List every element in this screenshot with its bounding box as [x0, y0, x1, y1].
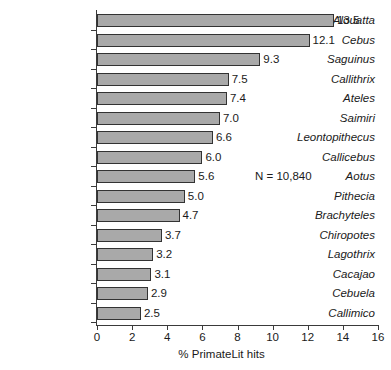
bar-value-label: 9.3: [260, 50, 279, 70]
value-axis-tick-label: 16: [372, 331, 385, 343]
value-axis-tick: [343, 325, 344, 330]
value-axis-tick-label: 8: [234, 331, 240, 343]
bar-value-label: 3.7: [162, 226, 181, 246]
bar-row: Saimiri7.0: [97, 109, 378, 129]
bar-row: Callicebus6.0: [97, 148, 378, 168]
value-axis-tick-label: 6: [199, 331, 205, 343]
category-label: Callimico: [328, 304, 375, 324]
bar-row: Lagothrix3.2: [97, 245, 378, 265]
category-label: Callithrix: [331, 70, 375, 90]
value-axis-tick: [167, 325, 168, 330]
bar-row: Brachyteles4.7: [97, 206, 378, 226]
bar: [97, 287, 148, 300]
bar: [97, 112, 220, 125]
bar: [97, 92, 227, 105]
bar-row: Leontopithecus6.6: [97, 128, 378, 148]
category-axis-tick: [91, 322, 97, 323]
bar-value-label: 12.1: [310, 31, 335, 51]
bar-value-label: 6.0: [202, 148, 221, 168]
category-label: Pithecia: [334, 187, 375, 207]
bar-row: Chiropotes3.7: [97, 226, 378, 246]
x-axis-title-text: % PrimateLit hits: [126, 348, 264, 360]
category-label: Saimiri: [340, 109, 375, 129]
category-label: Leontopithecus: [297, 128, 375, 148]
bar-row: Aotus5.6: [97, 167, 378, 187]
bar-value-label: 2.5: [141, 304, 160, 324]
bar-value-label: 3.1: [151, 265, 170, 285]
category-label: Brachyteles: [315, 206, 375, 226]
category-label: Aotus: [346, 167, 375, 187]
bar-row: Cebus12.1: [97, 31, 378, 51]
bar: [97, 229, 162, 242]
bar-value-label: 2.9: [148, 284, 167, 304]
value-axis-tick-label: 14: [336, 331, 349, 343]
bar: [97, 170, 195, 183]
category-label: Saguinus: [327, 50, 375, 70]
bar-row: Cacajao3.1: [97, 265, 378, 285]
sample-size-annotation: N = 10,840: [255, 167, 312, 187]
bar-row: Alouatta13.5: [97, 11, 378, 31]
value-axis-tick: [202, 325, 203, 330]
bar-chart: Alouatta13.5Cebus12.1Saguinus9.3Callithr…: [0, 0, 391, 370]
x-axis-title: % PrimateLit hits: [0, 348, 391, 360]
category-label: Cebus: [342, 31, 375, 51]
bar: [97, 307, 141, 320]
bar-value-label: 6.6: [213, 128, 232, 148]
bar-row: Ateles7.4: [97, 89, 378, 109]
plot-area: Alouatta13.5Cebus12.1Saguinus9.3Callithr…: [97, 11, 378, 325]
bar-value-label: 13.5: [334, 11, 359, 31]
value-axis-tick-label: 12: [301, 331, 314, 343]
bar: [97, 34, 310, 47]
bar-value-label: 7.5: [229, 70, 248, 90]
bar: [97, 73, 229, 86]
category-label: Lagothrix: [328, 245, 375, 265]
value-axis-tick: [97, 325, 98, 330]
value-axis-tick-label: 4: [164, 331, 170, 343]
bar-value-label: 5.0: [185, 187, 204, 207]
category-label: Cebuela: [332, 284, 375, 304]
bar-row: Cebuela2.9: [97, 284, 378, 304]
value-axis-tick-label: 0: [94, 331, 100, 343]
bar: [97, 14, 334, 27]
bar: [97, 151, 202, 164]
category-label: Ateles: [343, 89, 375, 109]
value-axis-tick-label: 10: [266, 331, 279, 343]
value-axis-tick: [132, 325, 133, 330]
bar-value-label: 4.7: [180, 206, 199, 226]
value-axis-tick: [308, 325, 309, 330]
value-axis-tick-label: 2: [129, 331, 135, 343]
bar-row: Pithecia5.0: [97, 187, 378, 207]
bar-row: Callithrix7.5: [97, 70, 378, 90]
bar-value-label: 7.4: [227, 89, 246, 109]
category-label: Cacajao: [333, 265, 375, 285]
bar: [97, 268, 151, 281]
value-axis-tick: [378, 325, 379, 330]
bar-row: Callimico2.5: [97, 304, 378, 324]
category-label: Chiropotes: [319, 226, 375, 246]
bar: [97, 131, 213, 144]
bar-value-label: 5.6: [195, 167, 214, 187]
bar: [97, 209, 180, 222]
bar-row: Saguinus9.3: [97, 50, 378, 70]
bar: [97, 53, 260, 66]
bar-value-label: 3.2: [153, 245, 172, 265]
bar: [97, 248, 153, 261]
category-label: Callicebus: [322, 148, 375, 168]
value-axis-tick: [238, 325, 239, 330]
bar: [97, 190, 185, 203]
value-axis-tick: [273, 325, 274, 330]
bar-value-label: 7.0: [220, 109, 239, 129]
